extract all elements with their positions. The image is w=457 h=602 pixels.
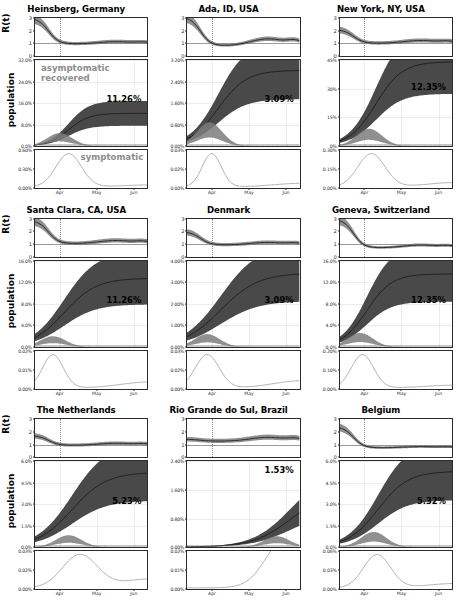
- rt-plot-area: 0123: [339, 17, 453, 57]
- rt-plot-area: 0123: [34, 17, 148, 57]
- final-percentage-label: 5.32%: [417, 496, 446, 506]
- recovered-plot-area: 0.0%1.5%3.0%4.5%6.0%5.23%: [34, 460, 148, 548]
- symptomatic-curve: [35, 351, 147, 389]
- rt-plot-area: 0123: [186, 218, 300, 258]
- panel-5: Denmark01230.00%1.00%2.00%3.00%4.00%3.09…: [152, 201, 304, 402]
- x-tick-mark: [59, 188, 60, 190]
- figure-root: Heinsberg, GermanyR(t)population01230.0%…: [0, 0, 457, 602]
- asymptomatic-annotation-line1: asymptomatic: [41, 63, 110, 73]
- symptomatic-annotation: symptomatic: [81, 152, 144, 162]
- x-tick-mark: [133, 188, 134, 190]
- panel-title: New York, NY, USA: [305, 3, 457, 16]
- symptomatic-plot-area: 0.00%0.02%0.03%AprMayJun: [34, 550, 148, 590]
- x-tick-mark: [438, 188, 439, 190]
- x-tick-mark: [133, 389, 134, 391]
- recovered-curve: [340, 60, 452, 146]
- y-axis-label-rt: R(t): [1, 8, 11, 38]
- y-axis-label-population: population: [6, 67, 16, 133]
- symptomatic-plot-area: 0.00%0.15%0.30%AprMayJun: [339, 149, 453, 189]
- final-percentage-label: 5.23%: [112, 496, 141, 506]
- x-tick-mark: [249, 188, 250, 190]
- panel-title: Santa Clara, CA, USA: [0, 204, 152, 217]
- panel-title: Denmark: [152, 204, 304, 217]
- symptomatic-plot-area: 0.00%0.10%0.20%AprMayJun: [339, 350, 453, 390]
- symptomatic-curve: [340, 351, 452, 389]
- panel-1: Heinsberg, GermanyR(t)population01230.0%…: [0, 0, 152, 201]
- y-axis-label-rt: R(t): [1, 209, 11, 239]
- panel-title: Belgium: [305, 404, 457, 417]
- recovered-plot-area: 0.0%8.0%16.0%24.0%32.0%11.26%asymptomati…: [34, 59, 148, 147]
- x-tick-mark: [286, 389, 287, 391]
- recovered-plot-area: 0.00%0.80%1.60%2.40%3.20%3.09%: [186, 59, 300, 147]
- rt-curve: [35, 18, 147, 56]
- symptomatic-plot-area: 0.00%0.01%0.02%AprMayJun: [186, 550, 300, 590]
- x-tick-mark: [96, 589, 97, 591]
- symptomatic-plot-area: 0.00%0.30%0.60%AprMayJunsymptomatic: [34, 149, 148, 189]
- y-axis-label-population: population: [6, 268, 16, 334]
- x-tick-mark: [438, 389, 439, 391]
- recovered-plot-area: 0.00%1.00%2.00%3.00%4.00%3.09%: [186, 260, 300, 348]
- recovered-plot-area: 0%15%30%45%12.35%: [339, 59, 453, 147]
- rt-plot-area: 0123: [339, 218, 453, 258]
- panel-9: Belgium01230.0%1.5%3.0%4.5%6.0%5.32%0.00…: [305, 401, 457, 602]
- y-axis-label-rt: R(t): [1, 409, 11, 439]
- panel-8: Rio Grande do Sul, Brazil01230.00%0.80%1…: [152, 401, 304, 602]
- symptomatic-curve: [187, 551, 299, 589]
- recovered-plot-area: 0.0%1.5%3.0%4.5%6.0%5.32%: [339, 460, 453, 548]
- rt-curve: [187, 419, 299, 457]
- panel-3: New York, NY, USA01230%15%30%45%12.35%0.…: [305, 0, 457, 201]
- final-percentage-label: 3.09%: [265, 94, 294, 104]
- panel-4: Santa Clara, CA, USAR(t)population01230.…: [0, 201, 152, 402]
- final-percentage-label: 12.35%: [411, 295, 446, 305]
- symptomatic-plot-area: 0.00%0.02%0.03%AprMayJun: [186, 350, 300, 390]
- symptomatic-plot-area: 0.00%0.02%0.03%AprMayJun: [186, 149, 300, 189]
- x-tick-mark: [401, 589, 402, 591]
- x-tick-mark: [249, 589, 250, 591]
- panel-grid: Heinsberg, GermanyR(t)population01230.0%…: [0, 0, 457, 602]
- recovered-plot-area: 0.00%0.80%1.60%2.40%1.53%: [186, 460, 300, 548]
- symptomatic-curve: [187, 351, 299, 389]
- final-percentage-label: 11.26%: [106, 295, 141, 305]
- recovered-plot-area: 0.0%4.0%8.0%12.0%16.0%11.26%: [34, 260, 148, 348]
- symptomatic-curve: [187, 150, 299, 188]
- x-tick-mark: [59, 389, 60, 391]
- rt-curve: [187, 219, 299, 257]
- panel-title: Heinsberg, Germany: [0, 3, 152, 16]
- x-tick-mark: [59, 589, 60, 591]
- symptomatic-curve: [35, 551, 147, 589]
- x-tick-mark: [364, 389, 365, 391]
- x-tick-mark: [212, 188, 213, 190]
- x-tick-mark: [286, 589, 287, 591]
- panel-title: Ada, ID, USA: [152, 3, 304, 16]
- final-percentage-label: 3.09%: [265, 295, 294, 305]
- x-tick-mark: [212, 389, 213, 391]
- symptomatic-plot-area: 0.00%0.03%0.06%AprMayJun: [339, 550, 453, 590]
- asymptomatic-annotation-line2: recovered: [41, 73, 110, 83]
- x-tick-mark: [401, 188, 402, 190]
- rt-plot-area: 0123: [34, 418, 148, 458]
- rt-plot-area: 0123: [339, 418, 453, 458]
- x-tick-mark: [364, 589, 365, 591]
- rt-plot-area: 0123: [186, 17, 300, 57]
- rt-curve: [340, 219, 452, 257]
- rt-plot-area: 0123: [186, 418, 300, 458]
- x-tick-mark: [133, 589, 134, 591]
- x-tick-mark: [401, 389, 402, 391]
- panel-title: The Netherlands: [0, 404, 152, 417]
- x-tick-mark: [438, 589, 439, 591]
- symptomatic-curve: [340, 551, 452, 589]
- panel-title: Rio Grande do Sul, Brazil: [152, 404, 304, 417]
- y-axis-label-population: population: [6, 468, 16, 534]
- x-tick-mark: [96, 188, 97, 190]
- panel-7: The NetherlandsR(t)population01230.0%1.5…: [0, 401, 152, 602]
- x-tick-mark: [96, 389, 97, 391]
- rt-curve: [187, 18, 299, 56]
- panel-6: Geneva, Switzerland01230.0%4.0%8.0%12.0%…: [305, 201, 457, 402]
- rt-curve: [35, 219, 147, 257]
- panel-2: Ada, ID, USA01230.00%0.80%1.60%2.40%3.20…: [152, 0, 304, 201]
- symptomatic-curve: [340, 150, 452, 188]
- x-tick-mark: [212, 589, 213, 591]
- asymptomatic-annotation: asymptomaticrecovered: [41, 63, 110, 83]
- x-tick-mark: [286, 188, 287, 190]
- recovered-plot-area: 0.0%4.0%8.0%12.0%16.0%12.35%: [339, 260, 453, 348]
